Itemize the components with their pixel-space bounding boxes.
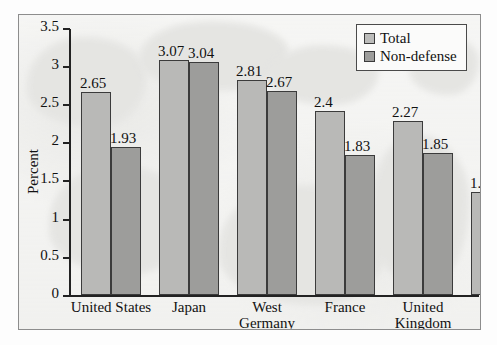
chart-page: 3.5 3 2.5 2 1.5 [0, 0, 497, 345]
bar-value-label: 3.04 [188, 46, 214, 61]
bar-slot: 2.81 [237, 27, 267, 295]
bar-nondefense[interactable]: 2.67 [267, 91, 297, 295]
bar-total[interactable]: 2.81 [237, 80, 267, 295]
bar-nondefense[interactable]: 1.93 [111, 147, 141, 295]
bar-value-label: 1.85 [422, 137, 448, 152]
bar-slot: 1.93 [111, 27, 141, 295]
bar-total[interactable]: 2.27 [393, 121, 423, 295]
legend-swatch-total-icon [364, 33, 375, 44]
bar-total[interactable]: 2.4 [315, 111, 345, 295]
legend-label-total: Total [380, 31, 411, 46]
y-tick-label: 1.5 [40, 171, 59, 186]
bar-nondefense[interactable]: 1.83 [345, 155, 375, 295]
y-tick-label: 1 [52, 210, 60, 225]
legend-label-nondefense: Non-defense [380, 49, 457, 64]
bar-value-label: 2.27 [392, 105, 418, 120]
y-tick-label: 0 [52, 286, 60, 301]
legend-item-nondefense[interactable]: Non-defense [364, 47, 457, 65]
y-tick-label: 2.5 [40, 95, 59, 110]
bar-slot: 1.35 [471, 27, 481, 295]
bar-total[interactable]: 2.65 [81, 92, 111, 295]
category-label-italy: Italy [453, 299, 481, 315]
legend-swatch-nondefense-icon [364, 51, 375, 62]
bar-total[interactable]: 1.35 [471, 192, 481, 295]
y-tick-label: 3.5 [40, 19, 59, 34]
x-axis-line [69, 295, 479, 297]
bar-value-label: 1.83 [344, 139, 370, 154]
bar-slot: 2.65 [81, 27, 111, 295]
y-axis-title: Percent [25, 112, 42, 232]
y-tick-label: 3 [52, 57, 60, 72]
y-tick-label: 2 [52, 133, 60, 148]
bar-value-label: 2.81 [236, 64, 262, 79]
bar-nondefense[interactable]: 3.04 [189, 62, 219, 295]
bar-slot: 3.07 [159, 27, 189, 295]
bar-value-label: 2.67 [266, 75, 292, 90]
bar-slot: 3.04 [189, 27, 219, 295]
bar-value-label: 2.65 [80, 76, 106, 91]
legend-item-total[interactable]: Total [364, 29, 457, 47]
plot-area: 3.5 3 2.5 2 1.5 [19, 15, 480, 329]
bar-value-label: 3.07 [158, 44, 184, 59]
y-tick-label: 0.5 [40, 248, 59, 263]
chart-frame: 3.5 3 2.5 2 1.5 [18, 14, 481, 330]
chart-legend: Total Non-defense [356, 24, 467, 71]
bar-value-label: 1.93 [110, 131, 136, 146]
bar-value-label: 1.35 [470, 176, 481, 191]
bar-value-label: 2.4 [314, 95, 333, 110]
bar-slot: 2.4 [315, 27, 345, 295]
bar-total[interactable]: 3.07 [159, 60, 189, 295]
bar-nondefense[interactable]: 1.85 [423, 153, 453, 295]
bar-slot: 2.67 [267, 27, 297, 295]
